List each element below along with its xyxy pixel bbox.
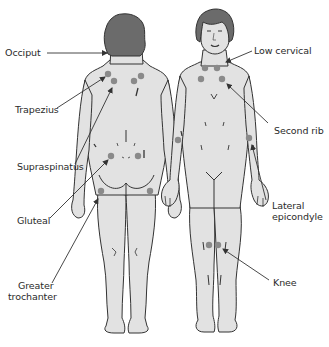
low-cervical-point-left xyxy=(202,65,208,71)
gluteal-point-right xyxy=(147,188,153,194)
posterior-left-leg xyxy=(97,190,126,333)
knee-point-left xyxy=(206,242,212,248)
trapezius-point-right xyxy=(131,78,137,84)
posterior-head-hair xyxy=(104,14,145,56)
trapezius-point-left xyxy=(111,78,117,84)
supraspinatus-point-left xyxy=(108,153,114,159)
label-supraspinatus: Supraspinatus xyxy=(17,161,84,172)
label-lateral-epicondyle-line1: Lateral xyxy=(272,200,304,211)
second-rib-point-right xyxy=(219,76,225,82)
anterior-right-arm xyxy=(244,76,268,206)
label-low-cervical: Low cervical xyxy=(254,45,311,56)
low-cervical-point-right xyxy=(214,65,220,71)
anterior-figure xyxy=(161,9,268,332)
anterior-torso xyxy=(179,62,251,208)
lateral-epicondyle-point-right xyxy=(246,135,252,141)
anterior-right-leg xyxy=(214,205,241,332)
occiput-point-right xyxy=(138,73,144,79)
label-knee: Knee xyxy=(273,277,297,288)
second-rib-point-left xyxy=(198,76,204,82)
posterior-figure xyxy=(72,14,182,333)
posterior-torso xyxy=(83,60,170,195)
lateral-epicondyle-point-left xyxy=(175,137,181,143)
supraspinatus-point-right xyxy=(135,153,141,159)
anterior-left-leg xyxy=(190,205,215,332)
knee-point-right xyxy=(215,242,221,248)
occiput-point-left xyxy=(105,71,111,77)
label-occiput: Occiput xyxy=(5,47,41,58)
low-cervical-leader xyxy=(226,51,252,62)
gluteal-point-left xyxy=(98,188,104,194)
label-trapezius: Trapezius xyxy=(15,104,59,115)
label-second-rib: Second rib xyxy=(274,125,324,136)
tender-points-figure: Occiput Trapezius Supraspinatus Gluteal … xyxy=(0,0,329,347)
label-greater-trochanter-line1: Greater xyxy=(18,280,48,291)
label-gluteal: Gluteal xyxy=(17,215,50,226)
label-lateral-epicondyle-line2: epicondyle xyxy=(272,211,323,222)
posterior-right-leg xyxy=(126,190,156,333)
label-greater-trochanter-line2: trochanter xyxy=(8,291,57,302)
